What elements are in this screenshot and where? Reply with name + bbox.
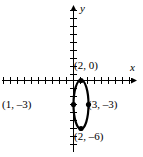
point-label-vertex-bottom: (2, –6)	[74, 131, 103, 142]
coordinate-plane	[0, 0, 143, 157]
x-axis-label: x	[130, 62, 135, 73]
point-label-vertex-top: (2, 0)	[74, 60, 98, 71]
ellipse-graph-figure: (2, 0) (1, –3) (3, –3) (2, –6) x y	[0, 0, 143, 157]
y-axis-label: y	[80, 3, 85, 14]
point-vertex-top	[78, 78, 83, 83]
point-label-covertex-left: (1, –3)	[2, 99, 31, 110]
point-label-covertex-right: (3, –3)	[88, 99, 117, 110]
point-covertex-left	[71, 102, 76, 107]
